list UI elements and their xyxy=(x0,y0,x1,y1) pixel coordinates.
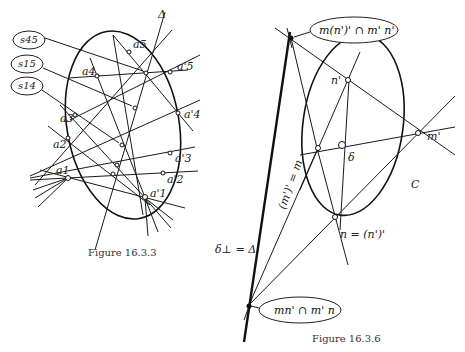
diagram-canvas: s45 s15 s14 Δ a1 a2 a3 a4 a5 a'1 a'2 a'3… xyxy=(0,0,465,352)
conic-C xyxy=(291,28,415,222)
label-delta: δ xyxy=(348,151,355,164)
label-a1: a1 xyxy=(56,164,70,177)
point-nprime xyxy=(346,78,351,83)
label-a5p: a'5 xyxy=(177,60,194,73)
callout-s15-label: s15 xyxy=(18,58,36,69)
point-a3p xyxy=(168,151,172,155)
point-a2p xyxy=(161,171,165,175)
label-mprime: m' xyxy=(427,130,440,143)
figure-16-3-3: s45 s15 s14 Δ a1 a2 a3 a4 a5 a'1 a'2 a'3… xyxy=(11,8,201,258)
point-top-intersection xyxy=(289,36,294,41)
point-aux xyxy=(111,172,115,176)
label-a4: a4 xyxy=(82,65,96,78)
label-m-eq: (m')' = m xyxy=(276,158,306,211)
label-nprime: n' xyxy=(331,74,341,87)
callout-s45-label: s45 xyxy=(20,34,38,45)
arrow-s14 xyxy=(42,90,119,143)
point-s15 xyxy=(133,106,137,110)
point-a5p xyxy=(168,70,172,74)
label-n-eq: n = (n')' xyxy=(340,228,385,241)
caption-right: Figure 16.3.6 xyxy=(312,333,381,344)
point-aux xyxy=(115,163,119,167)
point-delta xyxy=(339,142,346,149)
line-a4-a1p xyxy=(90,58,148,205)
point-a2 xyxy=(66,136,70,140)
point-a1p xyxy=(143,195,148,200)
label-a4p: a'4 xyxy=(184,108,201,121)
callout-bottom-label: mn' ∩ m' n xyxy=(274,304,335,317)
line-m-n xyxy=(317,148,348,265)
label-a3p: a'3 xyxy=(175,152,192,165)
point-m xyxy=(316,146,321,151)
arrow-callout-bottom xyxy=(251,306,259,308)
callout-s14-label: s14 xyxy=(18,80,36,91)
caption-left: Figure 16.3.3 xyxy=(88,247,157,258)
conic-left xyxy=(51,22,194,229)
label-a3: a3 xyxy=(60,112,74,125)
point-mprime xyxy=(416,131,421,136)
arrow-callout-top xyxy=(294,32,310,37)
point-bottom-intersection xyxy=(247,304,252,309)
label-a2p: a'2 xyxy=(167,173,184,186)
point-a4 xyxy=(95,74,99,78)
label-a5: a5 xyxy=(133,38,147,51)
point-n xyxy=(333,215,338,220)
point-s45 xyxy=(144,71,148,75)
point-s14 xyxy=(120,143,124,147)
label-C: C xyxy=(411,178,420,191)
line-bottom-m xyxy=(249,150,317,305)
label-delta: Δ xyxy=(157,8,166,21)
label-a2: a2 xyxy=(53,138,67,151)
point-a5 xyxy=(127,50,131,54)
label-a1p: a'1 xyxy=(150,187,167,200)
pencil-a1p xyxy=(145,198,171,228)
callout-top-label: m(n')' ∩ m' n' xyxy=(319,24,394,37)
pencil-a1 xyxy=(38,178,68,207)
line-a1-a5p xyxy=(35,30,172,185)
point-a4p xyxy=(176,111,180,115)
figure-16-3-6: m(n')' ∩ m' n' mn' ∩ m' n n' m' δ C n = … xyxy=(215,17,455,344)
label-polar: δ⊥ = Δ xyxy=(215,243,256,256)
